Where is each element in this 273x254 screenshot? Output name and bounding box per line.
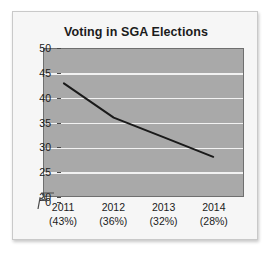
y-axis-tick-mark xyxy=(57,147,61,148)
y-axis-tick-label: 35 xyxy=(39,118,51,128)
x-axis: 2011(43%)2012(36%)2013(32%)2014(28%) xyxy=(43,200,244,240)
y-axis-tick-label: 50 xyxy=(39,43,51,53)
y-axis-tick-label: 25 xyxy=(39,167,51,177)
y-axis-tick-mark xyxy=(57,73,61,74)
chart-title: Voting in SGA Elections xyxy=(13,25,259,39)
x-axis-tick-2013: 2013(32%) xyxy=(138,200,190,228)
y-axis-tick-mark xyxy=(57,48,61,49)
plot-area xyxy=(43,48,244,197)
y-axis-tick-label: 40 xyxy=(39,93,51,103)
x-axis-tick-year: 2013 xyxy=(138,200,190,214)
y-axis-tick-label: 45 xyxy=(39,68,51,78)
x-axis-tick-2012: 2012(36%) xyxy=(87,200,139,228)
x-axis-tick-percent: (43%) xyxy=(37,214,89,228)
series-line-chart xyxy=(44,49,243,196)
x-axis-tick-2011: 2011(43%) xyxy=(37,200,89,228)
y-axis-tick-mark xyxy=(57,98,61,99)
y-axis-tick-mark xyxy=(57,172,61,173)
y-axis-tick-mark xyxy=(57,197,61,198)
x-axis-tick-year: 2014 xyxy=(188,200,240,214)
x-axis-tick-percent: (32%) xyxy=(138,214,190,228)
y-axis: 504540353025200 xyxy=(27,48,51,208)
y-axis-tick-mark xyxy=(57,123,61,124)
x-axis-tick-percent: (36%) xyxy=(87,214,139,228)
y-axis-tick-label: 30 xyxy=(39,142,51,152)
x-axis-tick-percent: (28%) xyxy=(188,214,240,228)
chart-card: Voting in SGA Elections 504540353025200 … xyxy=(12,11,258,240)
x-axis-tick-2014: 2014(28%) xyxy=(188,200,240,228)
x-axis-tick-year: 2012 xyxy=(87,200,139,214)
x-axis-tick-year: 2011 xyxy=(37,200,89,214)
data-series-line xyxy=(64,83,213,157)
